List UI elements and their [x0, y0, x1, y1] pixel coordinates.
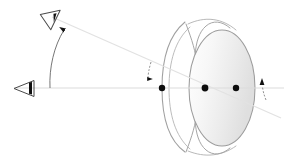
figure-canvas: Schematic eye with visual axis, optical … — [0, 0, 286, 158]
observer-eye-lower-pupil — [29, 82, 32, 95]
observer-eye-upper — [40, 7, 65, 31]
angle-alpha-arc-left — [50, 30, 64, 88]
nodal-point — [202, 85, 209, 92]
angle-kappa-arrowhead — [260, 78, 265, 85]
cornea-outer-arc — [162, 22, 185, 152]
posterior-point — [233, 85, 239, 91]
schematic-eye-model — [162, 19, 255, 155]
observer-eye-upper-outline — [40, 7, 65, 31]
anterior-corneal-point — [159, 85, 165, 91]
angle-arc-center — [148, 62, 151, 79]
optics-diagram-svg — [0, 0, 286, 158]
angle-kappa-arc-right — [263, 87, 267, 100]
globe-upper-sweep — [188, 19, 236, 30]
